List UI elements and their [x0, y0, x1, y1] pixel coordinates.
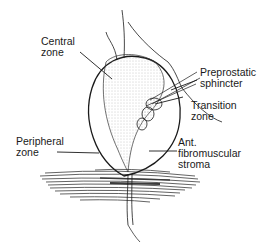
central-zone-shape	[103, 55, 164, 173]
label-preprostatic-sphincter: Preprostatic sphincter	[200, 67, 256, 89]
label-peripheral-zone: Peripheral zone	[16, 136, 64, 158]
label-ant-fibromuscular-stroma: Ant. fibromuscular stroma	[178, 137, 241, 170]
prostate-zone-diagram: Central zone Preprostatic sphincter Tran…	[0, 0, 268, 245]
label-central-zone: Central zone	[41, 36, 75, 58]
label-transition-zone: Transition zone	[191, 100, 237, 122]
